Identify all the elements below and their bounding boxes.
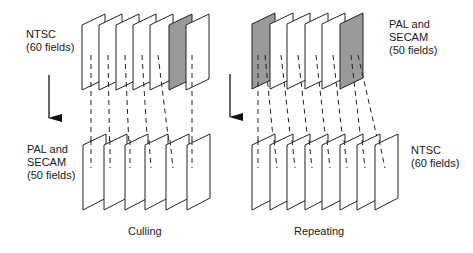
repeating-top-label: PAL and SECAM (50 fields) bbox=[389, 18, 437, 57]
repeating-caption: Repeating bbox=[294, 225, 344, 238]
field-card-shaded bbox=[340, 13, 363, 89]
culling-bottom-label: PAL and SECAM (50 fields) bbox=[27, 143, 75, 182]
field-card bbox=[145, 134, 168, 210]
repeating-bottom-fields bbox=[252, 134, 398, 210]
culling-bottom-fields bbox=[83, 134, 210, 210]
repeating-top-fields bbox=[252, 13, 363, 89]
field-card bbox=[375, 134, 398, 210]
repeating-bottom-label: NTSC (60 fields) bbox=[411, 144, 459, 170]
field-card bbox=[186, 14, 209, 90]
field-card bbox=[187, 134, 210, 210]
field-card bbox=[166, 134, 189, 210]
field-card bbox=[83, 134, 106, 210]
culling-top-label: NTSC (60 fields) bbox=[26, 28, 74, 54]
culling-top-fields bbox=[82, 14, 209, 90]
culling-caption: Culling bbox=[128, 225, 162, 238]
field-card bbox=[104, 134, 127, 210]
